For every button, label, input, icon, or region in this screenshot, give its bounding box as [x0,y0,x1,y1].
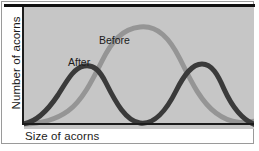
series-label-after: After [68,56,90,68]
distribution-curves-svg [24,7,254,129]
y-axis-line [22,7,24,125]
screenshot-root: Disruptive selection Before After Number… [0,0,259,151]
series-label-before: Before [99,34,130,46]
plot-panel: Before After [24,7,254,129]
x-axis-title: Size of acorns [25,130,99,142]
figure-frame: Disruptive selection Before After Number… [1,1,254,144]
y-axis-title: Number of acorns [10,9,22,117]
x-axis-line [22,123,254,125]
